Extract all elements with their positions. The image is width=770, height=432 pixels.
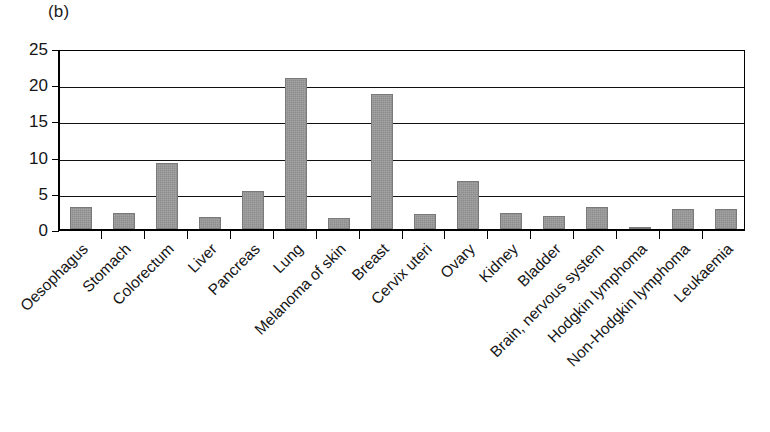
bar: [371, 94, 393, 229]
bar: [672, 209, 694, 229]
x-tick-mark: [444, 231, 445, 239]
gridline-15: [60, 123, 744, 124]
y-tick-label-20: 20: [4, 77, 48, 94]
bar: [199, 217, 221, 229]
y-tick-label-15: 15: [4, 113, 48, 130]
x-tick-mark: [573, 231, 574, 239]
x-tick-mark: [487, 231, 488, 239]
x-tick-mark: [530, 231, 531, 239]
y-tick-label-0: 0: [4, 222, 48, 239]
bar: [156, 163, 178, 229]
y-tick-label-10: 10: [4, 150, 48, 167]
x-tick-mark: [659, 231, 660, 239]
x-tick-mark: [316, 231, 317, 239]
figure-panel-b: (b) 0510152025 OesophagusStomachColorect…: [0, 0, 770, 432]
bar: [629, 227, 651, 229]
x-axis-label-text: Liver: [185, 240, 221, 276]
x-tick-mark: [187, 231, 188, 239]
x-tick-mark: [616, 231, 617, 239]
x-tick-mark: [702, 231, 703, 239]
x-tick-mark: [101, 231, 102, 239]
y-tick-mark-0: [52, 231, 59, 232]
bar: [715, 209, 737, 229]
bar: [543, 216, 565, 229]
plot-area: [58, 50, 745, 231]
y-tick-label-25: 25: [4, 41, 48, 58]
bar: [285, 78, 307, 229]
bar: [328, 218, 350, 229]
bar: [500, 213, 522, 229]
x-tick-mark: [230, 231, 231, 239]
x-tick-mark: [144, 231, 145, 239]
gridline-20: [60, 87, 744, 88]
y-tick-label-5: 5: [4, 186, 48, 203]
x-axis-label-text: Ovary: [437, 240, 478, 281]
panel-label: (b): [48, 2, 69, 22]
x-tick-mark: [359, 231, 360, 239]
bar: [70, 207, 92, 229]
bar: [586, 207, 608, 229]
x-axis-label-text: Lung: [270, 240, 306, 276]
bar: [414, 214, 436, 229]
bar: [113, 213, 135, 229]
gridline-10: [60, 160, 744, 161]
x-tick-mark: [273, 231, 274, 239]
bar: [457, 181, 479, 230]
bar: [242, 191, 264, 229]
x-tick-mark: [402, 231, 403, 239]
